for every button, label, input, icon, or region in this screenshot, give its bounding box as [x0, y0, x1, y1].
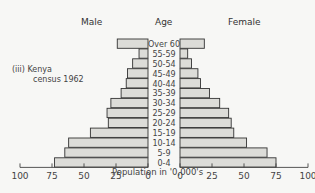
age-group-label: 15-19 — [152, 129, 175, 138]
female-bar — [180, 49, 188, 58]
male-bar — [108, 118, 148, 127]
male-bar — [139, 49, 148, 58]
age-group-label: 40-44 — [152, 80, 175, 89]
male-bar — [111, 98, 148, 107]
male-bar — [90, 128, 148, 137]
female-bar — [180, 89, 209, 98]
female-bar — [180, 108, 229, 117]
age-group-label: Over 60 — [148, 40, 180, 49]
male-bar — [107, 108, 148, 117]
male-bar — [126, 79, 148, 88]
female-bar — [180, 128, 234, 137]
x-axis-label: Population in '0,000's — [0, 167, 315, 177]
age-group-label: 45-49 — [152, 70, 175, 79]
male-bar — [133, 59, 148, 68]
age-group-label: 30-34 — [152, 99, 175, 108]
age-group-label: 20-24 — [152, 119, 175, 128]
female-bar — [180, 148, 267, 157]
age-group-label: 25-29 — [152, 109, 175, 118]
female-bar — [180, 59, 192, 68]
age-group-label: 5-9 — [157, 149, 170, 158]
female-bar — [180, 69, 198, 78]
female-bar — [180, 158, 276, 167]
male-bar — [65, 148, 148, 157]
age-group-label: 10-14 — [152, 139, 175, 148]
female-bar — [180, 118, 231, 127]
age-group-label: 55-59 — [152, 50, 175, 59]
male-bar — [69, 138, 148, 147]
female-bar — [180, 98, 220, 107]
age-group-label: 35-39 — [152, 89, 175, 98]
male-bar — [128, 69, 148, 78]
male-bar — [55, 158, 148, 167]
female-bar — [180, 138, 247, 147]
female-bar — [180, 39, 204, 48]
male-bar — [117, 39, 148, 48]
male-bar — [121, 89, 148, 98]
female-bar — [180, 79, 200, 88]
age-group-label: 50-54 — [152, 60, 175, 69]
population-pyramid: Over 6055-5950-5445-4940-4435-3930-3425-… — [0, 0, 315, 193]
